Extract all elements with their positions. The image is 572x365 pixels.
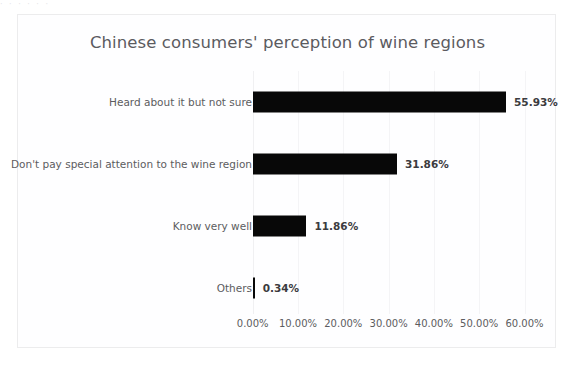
bar: [253, 154, 397, 175]
x-axis: 0.00%10.00%20.00%30.00%40.00%50.00%60.00…: [18, 318, 557, 334]
x-tick-label: 40.00%: [415, 318, 453, 329]
bar-value-label: 55.93%: [514, 96, 558, 108]
bar-row: Others0.34%: [18, 257, 557, 319]
bar-row: Know very well11.86%: [18, 195, 557, 257]
x-tick-label: 10.00%: [279, 318, 317, 329]
chart-container: Chinese consumers' perception of wine re…: [17, 14, 556, 348]
x-tick-label: 0.00%: [237, 318, 269, 329]
category-label: Don't pay special attention to the wine …: [11, 158, 252, 170]
bar-value-label: 0.34%: [263, 282, 299, 294]
category-label: Know very well: [173, 220, 252, 232]
bar-value-label: 31.86%: [405, 158, 449, 170]
bar-value-label: 11.86%: [314, 220, 358, 232]
x-tick-label: 30.00%: [370, 318, 408, 329]
bar: [253, 92, 506, 113]
bar-row: Heard about it but not sure55.93%: [18, 71, 557, 133]
bar: [253, 216, 307, 237]
x-tick-label: 20.00%: [324, 318, 362, 329]
bar-row: Don't pay special attention to the wine …: [18, 133, 557, 195]
bar: [253, 278, 255, 299]
category-label: Others: [217, 282, 252, 294]
scan-artifact-text: · · · · · ·: [0, 0, 572, 9]
category-label: Heard about it but not sure: [109, 96, 252, 108]
plot-area: Heard about it but not sure55.93%Don't p…: [18, 15, 557, 349]
x-tick-label: 60.00%: [505, 318, 543, 329]
x-tick-label: 50.00%: [460, 318, 498, 329]
